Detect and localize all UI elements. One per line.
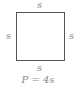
- side-label-left: s: [6, 31, 11, 41]
- side-label-right: s: [69, 31, 74, 41]
- perimeter-formula: P = 4s: [0, 75, 76, 85]
- square-shape: [16, 12, 65, 61]
- side-label-top: s: [37, 0, 42, 10]
- side-label-bottom: s: [37, 63, 42, 73]
